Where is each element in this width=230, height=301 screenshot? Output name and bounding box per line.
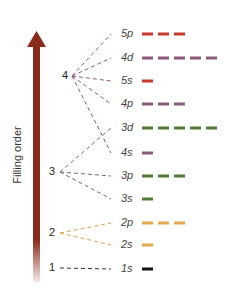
filling-order-arrow bbox=[27, 31, 46, 282]
connector-4-4d bbox=[72, 58, 111, 76]
orbital-box-3d bbox=[206, 127, 217, 130]
orbital-box-3p bbox=[174, 175, 185, 178]
orbital-box-3d bbox=[158, 127, 169, 130]
orbital-bars bbox=[142, 33, 217, 271]
orbital-box-2p bbox=[142, 222, 153, 225]
orbital-box-1s bbox=[142, 268, 153, 271]
connector-4-4s bbox=[72, 76, 111, 153]
connector-4-5p bbox=[72, 34, 111, 76]
orbital-box-4p bbox=[174, 103, 185, 106]
shell-number-3: 3 bbox=[49, 165, 55, 177]
orbital-box-4p bbox=[158, 103, 169, 106]
axis-label: Filling order bbox=[11, 126, 23, 183]
orbital-label-4p: 4p bbox=[121, 97, 133, 109]
diagram-canvas bbox=[0, 0, 230, 301]
orbital-box-3p bbox=[142, 175, 153, 178]
connector-1-1s bbox=[60, 268, 111, 269]
shell-number-2: 2 bbox=[49, 226, 55, 238]
orbital-box-2p bbox=[158, 222, 169, 225]
orbital-label-5s: 5s bbox=[121, 74, 133, 86]
orbital-label-1s: 1s bbox=[121, 262, 133, 274]
orbital-box-5s bbox=[142, 80, 153, 83]
orbital-box-5p bbox=[142, 33, 153, 36]
orbital-box-4d bbox=[206, 57, 217, 60]
orbital-box-4d bbox=[190, 57, 201, 60]
connector-3-3p bbox=[60, 172, 111, 176]
orbital-label-5p: 5p bbox=[121, 27, 133, 39]
orbital-label-4s: 4s bbox=[121, 146, 133, 158]
orbital-box-4d bbox=[174, 57, 185, 60]
arrow-head-icon bbox=[27, 31, 46, 47]
orbital-label-3p: 3p bbox=[121, 169, 133, 181]
shell-number-1: 1 bbox=[49, 261, 55, 273]
orbital-box-4p bbox=[142, 103, 153, 106]
orbital-box-3s bbox=[142, 198, 153, 201]
orbital-label-4d: 4d bbox=[121, 51, 133, 63]
orbital-label-2s: 2s bbox=[121, 238, 133, 250]
orbital-label-2p: 2p bbox=[121, 216, 133, 228]
orbital-box-3d bbox=[174, 127, 185, 130]
orbital-box-3d bbox=[190, 127, 201, 130]
orbital-box-2s bbox=[142, 244, 153, 247]
orbital-box-3d bbox=[142, 127, 153, 130]
orbital-filling-diagram: Filling order 4 3 2 1 5p 4d 5s 4p 3d 4s … bbox=[0, 0, 230, 301]
connector-3-3d bbox=[60, 128, 111, 172]
connector-4-4p bbox=[72, 76, 111, 104]
orbital-box-4d bbox=[142, 57, 153, 60]
shell-number-4: 4 bbox=[62, 69, 68, 81]
orbital-label-3d: 3d bbox=[121, 121, 133, 133]
connector-2-2p bbox=[60, 223, 111, 233]
orbital-box-5p bbox=[158, 33, 169, 36]
orbital-box-4d bbox=[158, 57, 169, 60]
orbital-box-3p bbox=[158, 175, 169, 178]
orbital-box-4s bbox=[142, 152, 153, 155]
connector-2-2s bbox=[60, 233, 111, 245]
orbital-box-2p bbox=[174, 222, 185, 225]
orbital-label-3s: 3s bbox=[121, 192, 133, 204]
connector-3-3s bbox=[60, 172, 111, 199]
arrow-shaft bbox=[33, 46, 40, 282]
orbital-box-5p bbox=[174, 33, 185, 36]
